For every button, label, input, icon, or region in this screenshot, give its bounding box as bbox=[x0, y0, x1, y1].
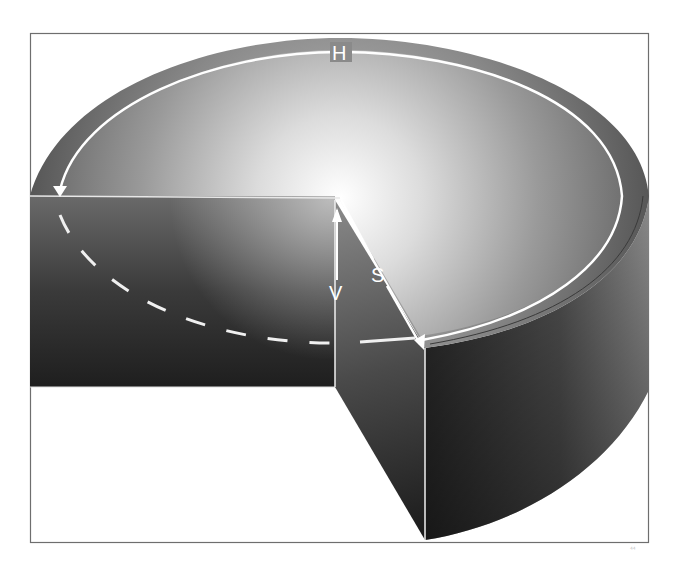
cylinder-cutaway-diagram: H V S bbox=[0, 0, 674, 573]
cut-face-left-highlight bbox=[30, 196, 335, 387]
corner-mark: ⁴⁴ bbox=[630, 546, 636, 554]
label-v: V bbox=[329, 282, 343, 304]
label-h: H bbox=[332, 42, 346, 64]
label-s: S bbox=[371, 264, 384, 286]
